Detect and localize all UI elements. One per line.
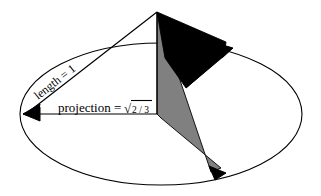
diagram-canvas: length = 1 projection = √ 2 / 3 bbox=[0, 0, 321, 196]
radicand-label: 2 / 3 bbox=[132, 105, 149, 115]
projection-label: projection = bbox=[58, 100, 121, 115]
cone-projection-figure: length = 1 projection = √ 2 / 3 bbox=[0, 0, 321, 196]
slant-length-line bbox=[31, 12, 157, 110]
radical-symbol: √ bbox=[124, 101, 132, 116]
